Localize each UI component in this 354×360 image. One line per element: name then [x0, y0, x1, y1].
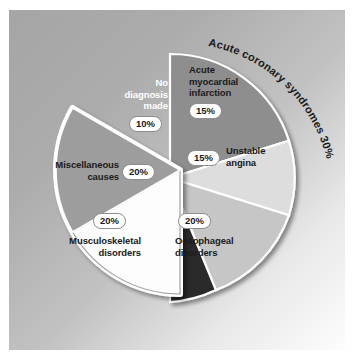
slice-label-musculoskeletal-disorders: Musculoskeletal disorders [53, 235, 141, 258]
label-line: causes [38, 171, 119, 183]
label-line: Acute [189, 64, 238, 76]
label-line: disorders [175, 247, 234, 259]
slice-value-acute-myocardial-infarction: 15% [189, 103, 222, 119]
label-line: Unstable [226, 145, 265, 157]
exploded-group-acute-coronary-syndromes[interactable] [56, 108, 180, 294]
slice-label-no-diagnosis-made: No diagnosis made [106, 77, 168, 112]
pie-chart-figure: Acute coronary syndromes 30% No diagnosi… [0, 0, 354, 360]
label-line: No [106, 77, 168, 89]
slice-label-unstable-angina: Unstable angina [226, 145, 265, 168]
slice-value-miscellaneous-causes: 20% [122, 164, 155, 180]
label-line: Miscellaneous [38, 159, 119, 171]
slice-label-miscellaneous-causes: Miscellaneous causes [38, 159, 119, 182]
slice-label-oesophageal-disorders: Oesophageal disorders [175, 235, 234, 258]
slice-value-unstable-angina: 15% [187, 150, 220, 166]
label-line: made [106, 100, 168, 112]
slice-value-no-diagnosis-made: 10% [129, 116, 162, 132]
label-line: diagnosis [106, 89, 168, 101]
label-line: myocardial [189, 76, 238, 88]
label-line: disorders [53, 247, 141, 259]
label-line: angina [226, 157, 265, 169]
label-line: infarction [189, 87, 238, 99]
slice-value-musculoskeletal-disorders: 20% [93, 213, 126, 229]
slice-value-oesophageal-disorders: 20% [178, 213, 211, 229]
label-line: Oesophageal [175, 235, 234, 247]
label-line: Musculoskeletal [53, 235, 141, 247]
slice-label-acute-myocardial-infarction: Acute myocardial infarction [189, 64, 238, 99]
